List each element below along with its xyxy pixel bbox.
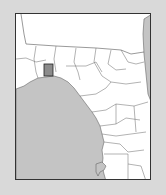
- atlantic-ocean: [143, 14, 151, 104]
- state-border: [21, 14, 144, 54]
- highlighted-county: [44, 64, 53, 76]
- gulf-of-mexico: [16, 76, 106, 180]
- map-frame: [15, 13, 151, 180]
- locator-map: [16, 14, 151, 180]
